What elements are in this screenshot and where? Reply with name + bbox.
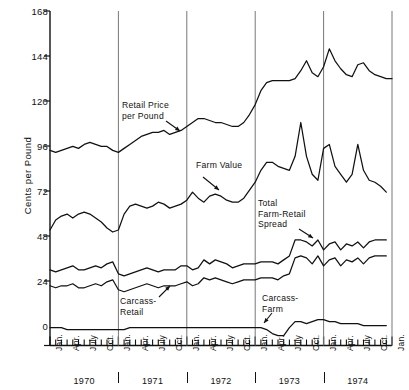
retail-price-annotation: Retail Price per Pound <box>122 100 169 121</box>
x-tick-label: Apr. <box>345 335 355 351</box>
year-divider-tick <box>187 372 188 383</box>
x-tick-label: Jan. <box>328 334 338 351</box>
year-divider-tick <box>324 372 325 383</box>
x-tick-label: July <box>157 335 167 351</box>
series-line-1 <box>50 123 386 233</box>
y-tick-label-0: 0 <box>18 321 48 332</box>
x-tick-label: July <box>88 335 98 351</box>
year-label-1970: 1970 <box>54 376 114 386</box>
y-tick-label-24: 24 <box>18 276 48 287</box>
x-tick-label: Jan. <box>259 334 269 351</box>
plot-area <box>0 0 409 390</box>
chart-root: Cents per Pound 168 144 120 96 72 48 24 … <box>0 0 409 390</box>
x-tick-label-final: Jan. <box>396 334 406 351</box>
series-line-2 <box>50 240 386 276</box>
series-line-0 <box>50 49 392 153</box>
y-tick-label-120: 120 <box>18 96 48 107</box>
x-tick-label: Apr. <box>140 335 150 351</box>
y-tick-label-96: 96 <box>18 141 48 152</box>
x-tick-label: July <box>362 335 372 351</box>
year-divider-tick <box>118 372 119 383</box>
y-tick-label-72: 72 <box>18 186 48 197</box>
carcass-farm-annotation: Carcass- Farm <box>262 293 298 314</box>
x-tick-label: Apr. <box>276 335 286 351</box>
x-tick-label: Apr. <box>71 335 81 351</box>
year-label-1973: 1973 <box>259 376 319 386</box>
x-axis-minor-ticks <box>50 337 392 346</box>
year-divider-tick <box>255 372 256 383</box>
x-tick-label: Oct. <box>105 335 115 351</box>
x-tick-label: Apr. <box>208 335 218 351</box>
y-tick-label-144: 144 <box>18 51 48 62</box>
data-series-lines <box>50 49 392 336</box>
axis-lines <box>44 11 392 346</box>
x-tick-label: Jan. <box>122 334 132 351</box>
carcass-retail-annotation: Carcass- Retail <box>120 296 156 317</box>
x-tick-label: Jan. <box>191 334 201 351</box>
y-tick-label-168: 168 <box>18 6 48 17</box>
y-tick-label-48: 48 <box>18 231 48 242</box>
x-tick-label: July <box>293 335 303 351</box>
x-tick-label: Jan. <box>54 334 64 351</box>
y-axis-title: Cents per Pound <box>22 121 33 231</box>
total-farm-retail-spread-annotation: Total Farm-Retail Spread <box>258 198 306 230</box>
farm-value-annotation: Farm Value <box>196 160 242 171</box>
x-tick-label: Oct. <box>242 335 252 351</box>
year-separator-lines <box>118 11 392 346</box>
x-tick-label: July <box>225 335 235 351</box>
x-tick-label: Oct. <box>379 335 389 351</box>
x-tick-label: Oct. <box>174 335 184 351</box>
year-label-1974: 1974 <box>328 376 388 386</box>
x-tick-label: Oct. <box>311 335 321 351</box>
year-label-1972: 1972 <box>191 376 251 386</box>
year-label-1971: 1971 <box>123 376 183 386</box>
